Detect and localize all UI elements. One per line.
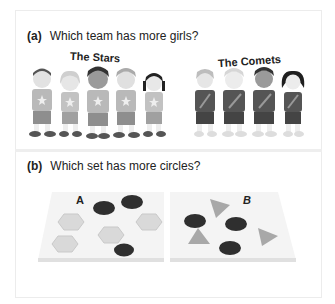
kid-3-icon: [86, 67, 110, 140]
team-stars-label: The Stars: [70, 50, 121, 65]
comets-team-illustration: [190, 64, 310, 144]
set-a-illustration: [38, 192, 164, 264]
kid-1-icon: [194, 69, 217, 137]
kid-4-icon: [113, 68, 140, 138]
question-a: (a)Which team has more girls?: [27, 29, 198, 43]
set-b-illustration: [170, 192, 296, 264]
kid-1-icon: [29, 69, 56, 138]
question-a-label: (a): [27, 29, 42, 43]
set-a-label: A: [76, 194, 84, 206]
kid-4-icon: [282, 71, 305, 137]
kid-3-icon: [252, 67, 277, 137]
section-divider: [15, 149, 322, 152]
kid-2-icon: [222, 68, 247, 137]
stars-team-illustration: [22, 64, 172, 144]
set-b-label: B: [243, 194, 251, 206]
question-b-text: Which set has more circles?: [50, 159, 200, 173]
question-b-label: (b): [27, 159, 42, 173]
question-a-text: Which team has more girls?: [50, 29, 199, 43]
kid-2-icon: [59, 71, 82, 137]
kid-5-icon: [143, 73, 166, 137]
question-b: (b)Which set has more circles?: [27, 159, 200, 173]
